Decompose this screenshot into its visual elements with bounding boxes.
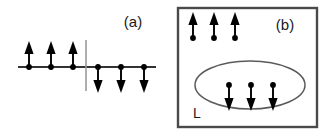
spin-configuration-figure: (a) L (b) — [0, 0, 328, 136]
lattice-site-dot — [141, 64, 147, 70]
spin-arrow-down — [116, 64, 125, 93]
lattice-site-dot — [226, 82, 232, 88]
panel-a-label: (a) — [124, 13, 142, 30]
lattice-site-dot — [248, 82, 254, 88]
lattice-site-dot — [26, 64, 32, 70]
figure-canvas: (a) L (b) — [0, 0, 328, 136]
spin-arrow-head — [68, 41, 77, 54]
lattice-site-dot — [270, 82, 276, 88]
spin-arrow-down — [93, 64, 102, 93]
lattice-site-dot — [211, 35, 217, 41]
spin-arrow-up — [68, 41, 77, 70]
lattice-site-dot — [48, 64, 54, 70]
spin-arrow-head — [46, 41, 55, 54]
lattice-site-dot — [118, 64, 124, 70]
lattice-site-dot — [95, 64, 101, 70]
spin-arrow-head — [139, 80, 148, 93]
panel-a: (a) — [18, 13, 156, 93]
spin-arrow-up — [24, 41, 33, 70]
spin-arrow-down — [139, 64, 148, 93]
domain-region-label-L: L — [193, 105, 201, 121]
spin-arrow-head — [116, 80, 125, 93]
lattice-site-dot — [70, 64, 76, 70]
panel-b-label: (b) — [276, 16, 294, 33]
spin-arrow-head — [93, 80, 102, 93]
lattice-site-dot — [190, 35, 196, 41]
panel-b: L (b) — [178, 8, 317, 127]
spin-arrow-head — [24, 41, 33, 54]
spin-arrow-up — [46, 41, 55, 70]
lattice-site-dot — [232, 35, 238, 41]
